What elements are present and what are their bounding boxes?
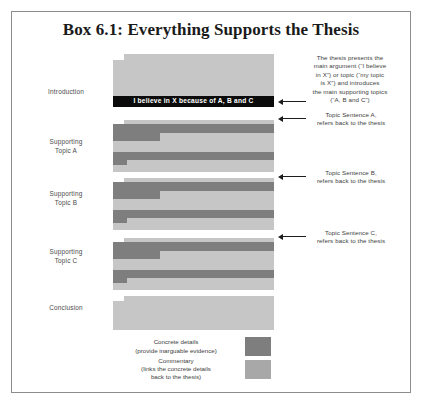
arrow-head-icon	[278, 116, 283, 122]
commentary-bar	[113, 259, 274, 270]
commentary-bar	[113, 141, 274, 152]
section-label-introduction: Introduction	[20, 88, 112, 97]
commentary-bar	[113, 283, 274, 290]
annotation-topic-c-line2: refers back to the thesis	[296, 237, 406, 245]
concrete-detail-bar	[113, 270, 274, 278]
thesis-statement-text: I believe in X because of A, B and C	[133, 98, 253, 105]
commentary-bar	[113, 165, 274, 172]
commentary-bar	[113, 60, 274, 96]
paragraph-block-topic-c	[113, 238, 274, 290]
annotation-topic-b-line2: refers back to the thesis	[296, 177, 406, 185]
topic-sentence-bar	[113, 124, 274, 133]
section-label-topic-c-line2: Topic C	[20, 257, 112, 266]
legend-label-concrete-line1: Concrete details	[113, 338, 239, 346]
legend-label-concrete-line2: (provide inarguable evidence)	[113, 347, 239, 355]
arrow-head-icon	[278, 234, 283, 240]
topic-sentence-bar	[113, 133, 160, 141]
commentary-bar	[113, 223, 274, 230]
topic-sentence-bar	[113, 242, 274, 251]
annotation-topic-b-line1: Topic Sentence B,	[296, 169, 406, 177]
essay-structure-diagram: Introduction Supporting Topic A Supporti…	[12, 12, 412, 394]
section-label-conclusion-text: Conclusion	[49, 304, 83, 311]
commentary-bar	[160, 133, 274, 141]
concrete-detail-bar	[113, 152, 274, 160]
section-label-conclusion: Conclusion	[20, 304, 112, 313]
commentary-bar	[160, 251, 274, 259]
box-frame: Box 6.1: Everything Supports the Thesis …	[11, 11, 411, 393]
legend-label-commentary-line3: back to the thesis)	[113, 373, 239, 381]
concrete-detail-bar	[113, 210, 274, 218]
section-label-topic-c: Supporting Topic C	[20, 248, 112, 265]
annotation-topic-a-line2: refers back to the thesis	[296, 119, 406, 127]
paragraph-block-introduction: I believe in X because of A, B and C	[113, 54, 274, 112]
topic-sentence-bar	[113, 182, 274, 191]
section-label-topic-a-line2: Topic A	[20, 147, 112, 156]
annotation-thesis-line2: main argument (“I believe	[294, 62, 406, 70]
annotation-thesis: The thesis presents the main argument (“…	[294, 54, 406, 104]
commentary-bar	[160, 191, 274, 199]
paragraph-block-topic-b	[113, 178, 274, 230]
annotation-thesis-line1: The thesis presents the	[294, 54, 406, 62]
commentary-bar	[113, 199, 274, 210]
legend-swatch-concrete	[245, 337, 271, 356]
legend: Concrete details (provide inarguable evi…	[113, 337, 343, 383]
annotation-thesis-line5: the main supporting topics	[294, 88, 406, 96]
annotation-thesis-line6: (“A, B and C”)	[294, 96, 406, 104]
section-label-topic-a-line1: Supporting	[20, 138, 112, 147]
legend-label-commentary: Commentary (links the concrete details b…	[113, 357, 239, 382]
annotation-topic-c: Topic Sentence C, refers back to the the…	[296, 229, 406, 246]
annotation-thesis-line4: is X”) and introduces	[294, 79, 406, 87]
paragraph-block-topic-a	[113, 120, 274, 172]
legend-row-concrete: Concrete details (provide inarguable evi…	[113, 337, 343, 356]
paragraph-block-conclusion	[113, 296, 274, 330]
section-label-topic-b-line2: Topic B	[20, 199, 112, 208]
section-label-topic-c-line1: Supporting	[20, 248, 112, 257]
legend-label-concrete: Concrete details (provide inarguable evi…	[113, 338, 239, 354]
commentary-bar	[113, 301, 274, 330]
legend-row-commentary: Commentary (links the concrete details b…	[113, 357, 343, 382]
thesis-statement-bar: I believe in X because of A, B and C	[113, 96, 274, 107]
section-label-topic-b: Supporting Topic B	[20, 190, 112, 207]
annotation-topic-a-line1: Topic Sentence A,	[296, 111, 406, 119]
topic-sentence-bar	[113, 251, 160, 259]
arrow-head-icon	[278, 99, 283, 105]
legend-label-commentary-line1: Commentary	[113, 357, 239, 365]
legend-label-commentary-line2: (links the concrete details	[113, 365, 239, 373]
annotation-topic-a: Topic Sentence A, refers back to the the…	[296, 111, 406, 128]
annotation-topic-c-line1: Topic Sentence C,	[296, 229, 406, 237]
topic-sentence-bar	[113, 191, 160, 199]
section-label-introduction-text: Introduction	[48, 88, 84, 95]
section-label-topic-b-line1: Supporting	[20, 190, 112, 199]
annotation-topic-b: Topic Sentence B, refers back to the the…	[296, 169, 406, 186]
section-label-topic-a: Supporting Topic A	[20, 138, 112, 155]
annotation-thesis-line3: in X”) or topic (“my topic	[294, 71, 406, 79]
legend-swatch-commentary	[245, 360, 271, 379]
arrow-head-icon	[278, 174, 283, 180]
